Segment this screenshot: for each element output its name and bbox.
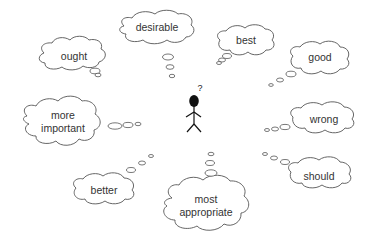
figure-left-leg — [187, 124, 194, 132]
thought-cloud-better — [74, 155, 154, 204]
figure-right-leg — [194, 124, 201, 132]
cloud-label-desirable: desirable — [136, 21, 179, 34]
cloud-label-best: best — [236, 34, 256, 47]
thought-cloud-most-appropriate — [164, 152, 249, 230]
figure-head — [189, 95, 199, 107]
cloud-label-most-appropriate: most appropriate — [179, 193, 232, 218]
cloud-label-wrong: wrong — [310, 113, 339, 126]
cloud-label-should: should — [304, 170, 335, 183]
cloud-label-better: better — [91, 184, 118, 197]
cloud-label-good: good — [308, 51, 331, 64]
stick-figure — [186, 95, 201, 132]
thought-cloud-good — [269, 41, 349, 86]
cloud-label-more-important: more important — [41, 109, 85, 134]
cloud-label-ought: ought — [61, 50, 87, 63]
figure-right-arm — [194, 112, 201, 117]
question-mark-icon: ? — [197, 83, 202, 93]
figure-left-arm — [186, 112, 194, 117]
